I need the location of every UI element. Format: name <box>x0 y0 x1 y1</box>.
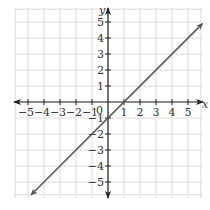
x-tick-label: 4 <box>169 106 176 119</box>
y-tick-label: 1 <box>97 80 104 93</box>
y-tick-label: −5 <box>88 176 104 189</box>
origin-label: 0 <box>96 104 103 117</box>
x-axis-label: x <box>202 98 209 111</box>
x-tick-label: 2 <box>137 106 144 119</box>
y-tick-label: −4 <box>88 160 104 173</box>
x-tick-label: −2 <box>66 106 82 119</box>
y-tick-label: 5 <box>97 16 104 29</box>
x-tick-label: −5 <box>18 106 34 119</box>
y-tick-label: 4 <box>97 32 104 45</box>
x-tick-label: −3 <box>50 106 66 119</box>
x-tick-label: −4 <box>34 106 50 119</box>
y-axis-label: y <box>98 4 106 17</box>
coordinate-plane: −5−4−3−2−112345−5−4−3−2−1123450xy <box>0 0 210 210</box>
y-tick-label: −3 <box>88 144 104 157</box>
x-tick-label: 1 <box>121 106 128 119</box>
y-tick-label: 2 <box>97 64 104 77</box>
x-tick-label: 5 <box>185 106 192 119</box>
y-tick-label: 3 <box>97 48 104 61</box>
x-tick-label: 3 <box>153 106 160 119</box>
